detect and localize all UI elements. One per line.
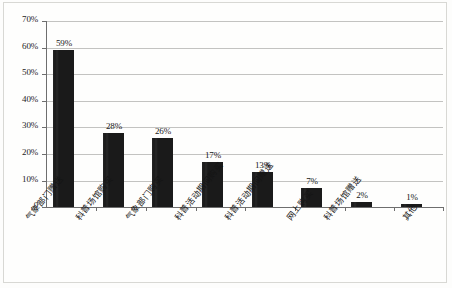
gridline-40 <box>46 101 443 102</box>
bar-1 <box>103 133 124 207</box>
gridline-60 <box>46 48 443 49</box>
y-axis-line <box>46 21 47 208</box>
x-tick-mark-2 <box>146 207 147 211</box>
gridline-50 <box>46 74 443 75</box>
x-tick-mark-8 <box>443 207 444 211</box>
bar-chart: 70% 60% 50% 40% 30% 20% 10% 0 59% 28% 26… <box>0 0 452 288</box>
y-tick-mark-60 <box>42 48 47 49</box>
bar-value-3: 17% <box>197 150 229 160</box>
x-tick-mark-4 <box>245 207 246 211</box>
y-tick-mark-20 <box>42 154 47 155</box>
x-tick-mark-7 <box>394 207 395 211</box>
y-tick-mark-40 <box>42 101 47 102</box>
bar-value-1: 28% <box>98 121 130 131</box>
x-tick-mark-3 <box>196 207 197 211</box>
bar-value-5: 7% <box>296 176 328 186</box>
bar-value-7: 1% <box>396 192 428 202</box>
y-tick-mark-30 <box>42 127 47 128</box>
y-tick-mark-50 <box>42 74 47 75</box>
bar-value-0: 59% <box>48 38 80 48</box>
bar-6 <box>351 202 372 207</box>
x-tick-mark-6 <box>345 207 346 211</box>
x-tick-mark-1 <box>96 207 97 211</box>
gridline-70 <box>46 21 443 22</box>
bar-value-2: 26% <box>147 126 179 136</box>
y-tick-mark-70 <box>42 21 47 22</box>
